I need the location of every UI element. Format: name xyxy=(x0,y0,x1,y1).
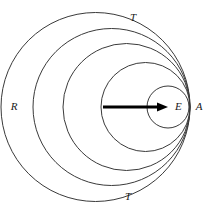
tangent-circles-figure: T T R A E xyxy=(0,0,207,213)
label-tangent-bottom: T xyxy=(125,190,132,202)
figure-canvas: T T R A E xyxy=(0,0,207,213)
label-outer-R: R xyxy=(10,100,18,112)
label-tangency-A: A xyxy=(195,100,203,112)
radius-vector-group xyxy=(103,103,168,112)
radius-vector-arrowhead xyxy=(157,103,168,112)
label-center-E: E xyxy=(174,100,182,112)
label-tangent-top: T xyxy=(130,11,137,23)
